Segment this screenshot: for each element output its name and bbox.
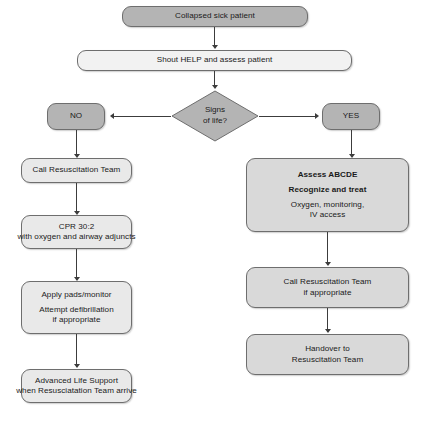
node-branch-yes: YES [322,103,380,130]
connector-pads-to-als [76,334,77,367]
arrowhead-pads-to-als [74,364,80,368]
arrowhead-decision-to-no [110,113,114,119]
node-shout-help-label: Shout HELP and assess patient [157,55,273,65]
node-collapsed-sick-patient-label: Collapsed sick patient [175,11,255,21]
arrowhead-decision-to-yes [315,113,319,119]
node-call-team-right-line1: Call Resuscitation Team [284,277,372,287]
node-handover-line2: Resuscitation Team [292,355,363,365]
node-assess-line4: IV access [310,210,346,220]
arrowhead-shout-to-decision [212,85,218,89]
decision-label-line1: Signs [205,105,225,116]
node-advanced-life-support: Advanced Life Support when Resusciatatio… [21,369,132,403]
node-call-team-right-line2: if appropriate [304,288,352,298]
node-assess-line3: Oxygen, monitoring, [291,200,364,210]
decision-signs-of-life: Signs of life? [171,90,259,142]
node-assess-line1: Assess ABCDE [298,170,358,180]
connector-decision-to-no [112,116,171,117]
arrowhead-call-team-to-handover [325,329,331,333]
decision-signs-of-life-label: Signs of life? [171,90,259,142]
node-assess-line2: Recognize and treat [289,185,367,195]
node-handover: Handover to Resuscitation Team [246,334,409,375]
node-collapsed-sick-patient: Collapsed sick patient [122,6,308,27]
node-apply-pads-line1: Apply pads/monitor [41,290,111,300]
node-cpr-line2: with oxygen and airway adjuncts [17,232,135,242]
connector-decision-to-yes [259,116,317,117]
node-als-line2: when Resusciatation Team arrive [16,386,137,396]
connector-no-to-call-team [76,130,77,156]
node-branch-no: NO [47,103,105,130]
node-apply-pads-line3: if appropriate [53,315,101,325]
connector-assess-to-call-team [327,232,328,265]
connector-start-to-shout [214,27,215,47]
node-als-line1: Advanced Life Support [35,376,118,386]
node-call-resuscitation-team-right: Call Resuscitation Team if appropriate [246,267,409,308]
connector-cpr-to-pads [76,249,77,280]
node-branch-no-label: NO [70,111,82,121]
connector-call-team-to-cpr [76,183,77,213]
node-handover-line1: Handover to [305,344,350,354]
node-cpr-line1: CPR 30:2 [59,222,95,232]
connector-yes-to-assess [351,130,352,156]
node-call-resuscitation-team-left-label: Call Resuscitation Team [33,165,121,175]
node-shout-help: Shout HELP and assess patient [77,50,352,71]
decision-label-line2: of life? [203,116,227,127]
arrowhead-assess-to-call-team [325,262,331,266]
node-assess-abcde: Assess ABCDE Recognize and treat Oxygen,… [246,158,409,232]
node-call-resuscitation-team-left: Call Resuscitation Team [21,158,132,183]
node-branch-yes-label: YES [343,111,359,121]
node-apply-pads-monitor: Apply pads/monitor Attempt defibrillatio… [21,281,132,334]
node-apply-pads-line2: Attempt defibrillation [39,305,113,315]
arrowhead-start-to-shout [212,45,218,49]
node-cpr: CPR 30:2 with oxygen and airway adjuncts [21,215,132,249]
flowchart-canvas: Collapsed sick patient Shout HELP and as… [0,0,429,429]
